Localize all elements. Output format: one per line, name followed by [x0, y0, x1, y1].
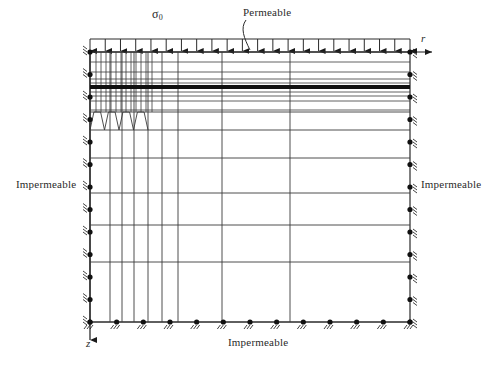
sigma-glyph: σ — [152, 7, 159, 21]
mesh-horizontal-lines-lower — [90, 130, 410, 322]
supports-bottom-boundary — [84, 319, 413, 329]
label-impermeable-bottom: Impermeable — [228, 336, 288, 348]
permeable-leader-line — [243, 20, 250, 50]
label-impermeable-left: Impermeable — [16, 178, 76, 190]
supports-right-boundary — [407, 49, 417, 328]
thick-soil-layer — [90, 85, 410, 89]
fem-mesh-diagram: σ0 Permeable Impermeable Impermeable Imp… — [0, 0, 496, 365]
load-symbol-label: σ0 — [152, 7, 163, 22]
sigma-subscript: 0 — [159, 13, 163, 22]
axis-label-z: z — [86, 337, 90, 349]
transition-elements — [90, 112, 410, 130]
label-impermeable-right: Impermeable — [421, 178, 481, 190]
mesh-vertical-lines-fine — [96, 52, 152, 112]
label-permeable: Permeable — [243, 6, 291, 18]
mesh-vertical-lines-coarse — [110, 52, 290, 322]
axis-label-r: r — [421, 32, 425, 44]
domain-boundary — [90, 52, 410, 322]
